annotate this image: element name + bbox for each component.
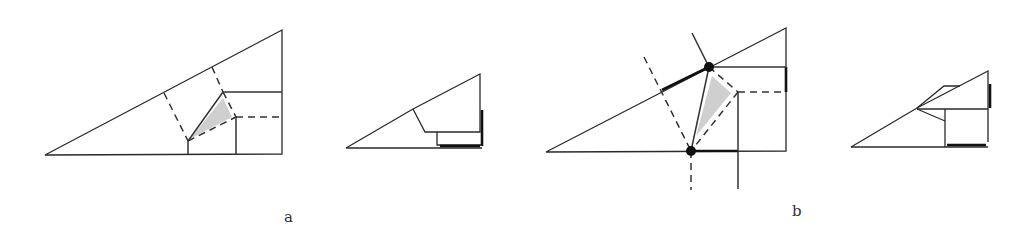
figure-a-folded — [346, 74, 482, 148]
upper-extended-crease — [692, 33, 709, 67]
figure-a-crease-pattern — [45, 30, 282, 155]
shaded-region — [190, 98, 232, 139]
lower-flap — [917, 109, 945, 121]
figure-b-folded — [851, 71, 990, 147]
left-dashed-crease — [644, 57, 691, 151]
left-dashed-crease — [164, 93, 188, 141]
figure-label-b: b — [792, 202, 802, 220]
figure-label-a: a — [284, 208, 293, 226]
hypotenuse-highlight — [662, 67, 709, 90]
triangle-outline — [546, 28, 786, 152]
folded-outline — [346, 74, 480, 148]
inner-flap — [437, 132, 482, 145]
reference-point-top — [704, 62, 714, 72]
upper-dashed-crease — [212, 67, 223, 92]
reference-point-bottom — [686, 146, 696, 156]
figure-b-crease-pattern — [546, 28, 786, 190]
diagram-canvas — [0, 0, 1028, 239]
